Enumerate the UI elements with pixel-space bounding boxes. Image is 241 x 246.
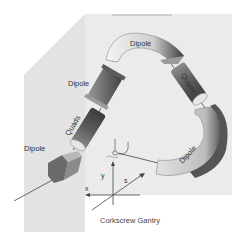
corkscrew-gantry-diagram: Dipole Quads Dipole Dipole Quads Dipole … (0, 0, 241, 246)
label-dipole-lower-left: Dipole (24, 145, 45, 153)
diagram-caption: Corkscrew Gantry (100, 216, 160, 225)
diagram-canvas (0, 0, 241, 246)
axis-label-x: x (85, 185, 89, 192)
label-dipole-upper-left: Dipole (68, 80, 89, 88)
label-dipole-top: Dipole (130, 40, 151, 48)
axis-label-s: s (124, 177, 128, 184)
axis-label-y: y (101, 172, 105, 179)
